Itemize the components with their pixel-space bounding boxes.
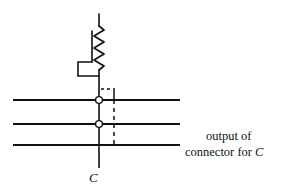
output-connector-label: output of connector for C	[194, 128, 263, 160]
resistor-zigzag-icon	[94, 26, 104, 70]
node-label-c: C	[89, 170, 98, 186]
output-label-variable: C	[255, 145, 263, 159]
output-label-line-2: connector for C	[185, 144, 263, 160]
junction-node-1	[96, 97, 103, 104]
circuit-diagram: output of connector for C C	[0, 0, 285, 193]
junction-node-2	[96, 121, 103, 128]
schematic-canvas	[0, 0, 285, 193]
resistor-wiper-bracket	[78, 62, 99, 76]
output-label-line-2-text: connector for	[185, 145, 255, 159]
output-label-line-1: output of	[194, 128, 263, 144]
